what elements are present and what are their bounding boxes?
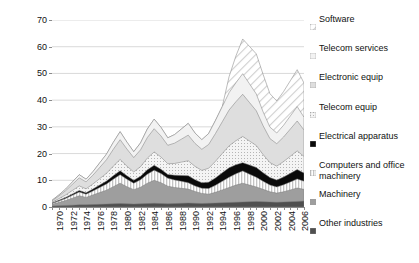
legend-item-label: Machinery bbox=[319, 189, 361, 200]
legend-item[interactable]: Telecom equip bbox=[310, 102, 377, 113]
x-axis-tick-label: 2002 bbox=[274, 211, 283, 231]
legend-swatch-icon bbox=[310, 133, 316, 139]
x-axis-tick-label: 2004 bbox=[288, 211, 297, 231]
x-axis-tick-mark bbox=[154, 207, 155, 210]
y-axis-tick-label: 70 bbox=[37, 16, 47, 25]
y-axis-tick-label: 30 bbox=[37, 122, 47, 131]
x-axis-tick-mark bbox=[59, 207, 60, 210]
x-axis-tick-mark bbox=[175, 207, 176, 210]
x-axis-tick-mark bbox=[209, 207, 210, 210]
legend-swatch-icon bbox=[310, 191, 316, 197]
legend-item-label: Telecom services bbox=[319, 43, 388, 54]
x-axis-tick-mark bbox=[147, 207, 148, 210]
legend-item[interactable]: Electrical apparatus bbox=[310, 131, 398, 142]
x-axis-tick-mark bbox=[256, 207, 257, 210]
x-axis-tick-label: 1986 bbox=[165, 211, 174, 231]
x-axis-tick-mark bbox=[284, 207, 285, 210]
x-axis-tick-label: 1980 bbox=[124, 211, 133, 231]
x-axis-tick-label: 1998 bbox=[247, 211, 256, 231]
y-axis-tick-label: 0 bbox=[42, 203, 47, 212]
y-axis-tick-label: 20 bbox=[37, 149, 47, 158]
y-axis-tick-label: 50 bbox=[37, 69, 47, 78]
y-axis-tick-mark bbox=[49, 100, 52, 101]
x-axis-tick-mark bbox=[113, 207, 114, 210]
legend-swatch-icon bbox=[310, 74, 316, 80]
x-axis-tick-label: 1992 bbox=[206, 211, 215, 231]
x-axis-tick-mark bbox=[161, 207, 162, 210]
x-axis-tick-label: 1978 bbox=[110, 211, 119, 231]
x-axis-tick-mark bbox=[86, 207, 87, 210]
y-axis-tick-label: 10 bbox=[37, 176, 47, 185]
legend-item-label: Electrical apparatus bbox=[319, 131, 398, 142]
x-axis-tick-mark bbox=[141, 207, 142, 210]
x-axis-tick-label: 1984 bbox=[151, 211, 160, 231]
x-axis-tick-label: 1974 bbox=[83, 211, 92, 231]
x-axis-tick-mark bbox=[236, 207, 237, 210]
x-axis-tick-mark bbox=[52, 207, 53, 210]
legend-item-label: Computers and office machinery bbox=[319, 160, 414, 182]
x-axis-tick-label: 1990 bbox=[192, 211, 201, 231]
legend-item[interactable]: Electronic equip bbox=[310, 72, 383, 83]
x-axis-labels: 1970197219741976197819801982198419861988… bbox=[52, 211, 304, 261]
x-axis-tick-mark bbox=[195, 207, 196, 210]
legend-item[interactable]: Computers and office machinery bbox=[310, 160, 414, 182]
x-axis-tick-mark bbox=[79, 207, 80, 210]
x-axis-tick-mark bbox=[250, 207, 251, 210]
legend-swatch-icon bbox=[310, 45, 316, 51]
y-axis-tick-mark bbox=[49, 154, 52, 155]
x-axis-tick-label: 1996 bbox=[233, 211, 242, 231]
legend-item-label: Electronic equip bbox=[319, 72, 383, 83]
y-axis-tick-mark bbox=[49, 47, 52, 48]
x-axis-tick-mark bbox=[120, 207, 121, 210]
x-axis-tick-mark bbox=[215, 207, 216, 210]
x-axis-tick-label: 2006 bbox=[301, 211, 310, 231]
y-axis-tick-label: 60 bbox=[37, 42, 47, 51]
chart-figure: 010203040506070 bbox=[0, 0, 419, 263]
x-axis-tick-mark bbox=[222, 207, 223, 210]
y-axis-tick-mark bbox=[49, 180, 52, 181]
legend-item-label: Software bbox=[319, 14, 355, 25]
legend-swatch-icon bbox=[310, 16, 316, 22]
legend-swatch-icon bbox=[310, 104, 316, 110]
legend-item[interactable]: Software bbox=[310, 14, 355, 25]
x-axis-tick-mark bbox=[243, 207, 244, 210]
area-series-group bbox=[52, 39, 304, 207]
y-axis-tick-label: 40 bbox=[37, 96, 47, 105]
x-axis-tick-label: 2000 bbox=[260, 211, 269, 231]
x-axis-tick-mark bbox=[202, 207, 203, 210]
x-axis-tick-mark bbox=[270, 207, 271, 210]
x-axis-tick-mark bbox=[72, 207, 73, 210]
legend-swatch-icon bbox=[310, 162, 316, 168]
legend-item[interactable]: Telecom services bbox=[310, 43, 388, 54]
x-axis-tick-mark bbox=[277, 207, 278, 210]
x-axis-tick-label: 1972 bbox=[70, 211, 79, 231]
x-axis-tick-mark bbox=[229, 207, 230, 210]
y-axis-tick-mark bbox=[49, 127, 52, 128]
x-axis-tick-label: 1982 bbox=[138, 211, 147, 231]
stacked-area-plot bbox=[52, 20, 304, 207]
x-axis-tick-mark bbox=[290, 207, 291, 210]
plot-area: 010203040506070 bbox=[52, 20, 304, 207]
x-axis-tick-mark bbox=[66, 207, 67, 210]
x-axis-tick-mark bbox=[263, 207, 264, 210]
x-axis-tick-mark bbox=[181, 207, 182, 210]
y-axis-tick-mark bbox=[49, 20, 52, 21]
x-axis-tick-mark bbox=[134, 207, 135, 210]
x-axis-tick-label: 1994 bbox=[219, 211, 228, 231]
x-axis-tick-label: 1970 bbox=[56, 211, 65, 231]
legend-item-label: Telecom equip bbox=[319, 102, 377, 113]
x-axis-tick-mark bbox=[304, 207, 305, 210]
legend-item-label: Other industries bbox=[319, 218, 383, 229]
legend-swatch-icon bbox=[310, 220, 316, 226]
x-axis-tick-mark bbox=[168, 207, 169, 210]
legend-item[interactable]: Other industries bbox=[310, 218, 383, 229]
x-axis-tick-mark bbox=[106, 207, 107, 210]
x-axis-tick-mark bbox=[100, 207, 101, 210]
x-axis-tick-label: 1988 bbox=[179, 211, 188, 231]
y-axis-tick-mark bbox=[49, 73, 52, 74]
x-axis-tick-label: 1976 bbox=[97, 211, 106, 231]
x-axis-tick-mark bbox=[127, 207, 128, 210]
x-axis-tick-mark bbox=[93, 207, 94, 210]
legend-item[interactable]: Machinery bbox=[310, 189, 361, 200]
chart-legend: SoftwareTelecom servicesElectronic equip… bbox=[310, 14, 419, 254]
